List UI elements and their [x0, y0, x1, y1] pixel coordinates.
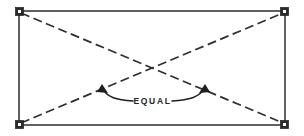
corner-marker-bottom-right: [281, 121, 289, 129]
leader-line-left: [102, 87, 133, 101]
equal-diagonals-diagram: EQUAL: [0, 0, 304, 136]
diagram-canvas: EQUAL: [0, 0, 304, 136]
corner-marker-top-right: [281, 8, 289, 16]
equal-label: EQUAL: [133, 96, 171, 106]
corner-marker-top-left: [16, 8, 24, 16]
leader-line-right: [172, 87, 205, 101]
arrow-head-left-icon: [97, 84, 108, 93]
corner-marker-bottom-left: [16, 121, 24, 129]
